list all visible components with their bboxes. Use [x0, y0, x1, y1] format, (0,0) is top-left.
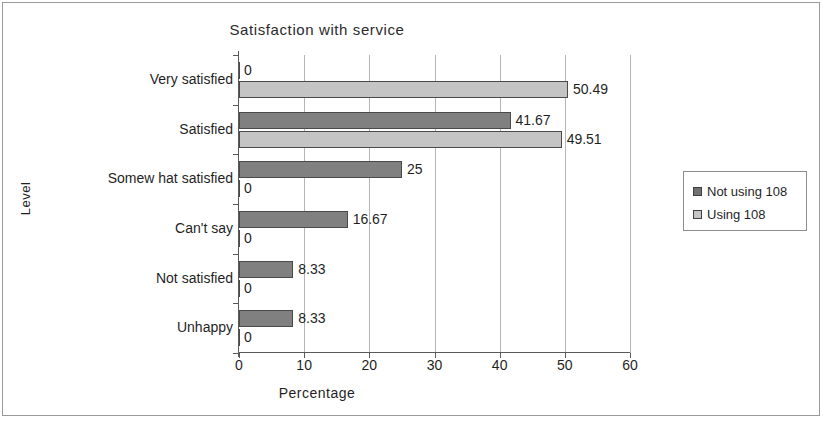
bar-not-using-108 [239, 62, 240, 79]
bar-value-label: 0 [244, 62, 252, 79]
x-axis-tick-label: 20 [362, 357, 378, 373]
x-axis-tick-labels: 0102030405060 [239, 355, 630, 379]
bar-value-label: 0 [244, 329, 252, 346]
legend-swatch-icon [693, 187, 702, 196]
gridline [565, 55, 566, 353]
bar-not-using-108 [239, 310, 293, 327]
bar-value-label: 49.51 [567, 131, 602, 148]
bar-not-using-108 [239, 112, 511, 129]
bar-value-label: 8.33 [298, 261, 325, 278]
y-axis-tick [233, 303, 239, 304]
x-axis-title: Percentage [3, 385, 631, 401]
bar-using-108 [239, 280, 240, 297]
category-label: Somew hat satisfied [13, 170, 233, 186]
chart-legend: Not using 108Using 108 [683, 171, 807, 231]
legend-label: Not using 108 [707, 184, 787, 199]
bar-value-label: 25 [407, 161, 423, 178]
bar-using-108 [239, 180, 240, 197]
y-axis-tick [233, 254, 239, 255]
x-axis-tick-label: 30 [427, 357, 443, 373]
x-axis-tick-label: 10 [296, 357, 312, 373]
bar-using-108 [239, 329, 240, 346]
bar-not-using-108 [239, 211, 348, 228]
legend-item[interactable]: Using 108 [693, 206, 766, 222]
bar-not-using-108 [239, 161, 402, 178]
category-label: Unhappy [13, 319, 233, 335]
x-axis-tick-label: 60 [622, 357, 638, 373]
legend-item[interactable]: Not using 108 [693, 183, 787, 199]
bar-value-label: 50.49 [573, 81, 608, 98]
gridline [630, 55, 631, 353]
bar-value-label: 0 [244, 280, 252, 297]
x-axis-tick-label: 0 [235, 357, 243, 373]
y-axis-title: Level [18, 159, 33, 239]
bar-using-108 [239, 81, 568, 98]
chart-title: Satisfaction with service [3, 21, 631, 38]
y-axis-tick [233, 204, 239, 205]
bar-using-108 [239, 230, 240, 247]
gridline [435, 55, 436, 353]
y-axis-tick [233, 55, 239, 56]
category-label: Not satisfied [13, 270, 233, 286]
legend-swatch-icon [693, 210, 702, 219]
bar-value-label: 0 [244, 230, 252, 247]
x-axis-tick-label: 50 [557, 357, 573, 373]
category-axis-labels: Very satisfiedSatisfiedSomew hat satisfi… [11, 55, 233, 353]
x-axis-tick-label: 40 [492, 357, 508, 373]
bar-value-label: 16.67 [353, 211, 388, 228]
bar-using-108 [239, 131, 562, 148]
bar-value-label: 8.33 [298, 310, 325, 327]
legend-label: Using 108 [707, 207, 766, 222]
chart-frame: Satisfaction with service Very satisfied… [2, 2, 820, 416]
y-axis-tick [233, 154, 239, 155]
category-label: Very satisfied [13, 71, 233, 87]
gridline [369, 55, 370, 353]
plot-area: 050.4941.6749.5125016.6708.3308.330 [239, 55, 630, 353]
bar-value-label: 41.67 [516, 112, 551, 129]
bar-not-using-108 [239, 261, 293, 278]
gridline [304, 55, 305, 353]
y-axis-tick [233, 105, 239, 106]
category-label: Can't say [13, 220, 233, 236]
gridline [500, 55, 501, 353]
category-label: Satisfied [13, 121, 233, 137]
bar-value-label: 0 [244, 180, 252, 197]
